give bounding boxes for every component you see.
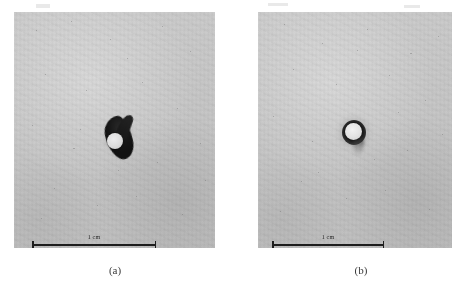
scan-artifact (268, 3, 288, 6)
panel-a-caption: (a) (84, 263, 146, 277)
panel-a-scalebar-label: 1 cm (32, 233, 156, 241)
scan-artifact (404, 5, 420, 8)
scan-artifact (36, 4, 50, 8)
panel-b-scalebar-label: 1 cm (272, 233, 384, 241)
figure-root: 1 cm (0, 0, 467, 292)
panel-a-feature (98, 112, 142, 166)
panel-b-caption: (b) (330, 263, 392, 277)
micrograph-panel-a: 1 cm (14, 12, 215, 248)
panel-a-hole (107, 133, 123, 149)
panel-a-scalebar-cap-left (32, 241, 34, 248)
panel-b-scalebar-cap-right (383, 241, 385, 248)
panel-b-feature (336, 114, 376, 162)
panel-a-scalebar-cap-right (155, 241, 157, 248)
panel-a-scalebar: 1 cm (32, 234, 156, 248)
panel-b-scalebar-line (272, 244, 384, 246)
panel-b-hole (345, 123, 362, 140)
panel-b-scalebar-cap-left (272, 241, 274, 248)
panel-a-scalebar-line (32, 244, 156, 246)
panel-b-scalebar: 1 cm (272, 234, 384, 248)
micrograph-panel-b: 1 cm (258, 12, 452, 248)
